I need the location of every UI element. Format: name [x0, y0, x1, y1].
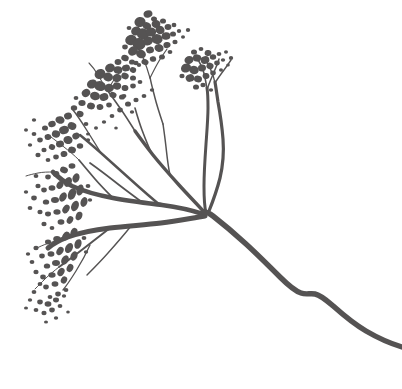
bud	[28, 206, 33, 210]
bud	[137, 63, 141, 67]
bud	[28, 143, 32, 147]
bud	[170, 31, 176, 36]
bud	[32, 132, 37, 136]
bud	[110, 114, 115, 118]
bud	[58, 219, 65, 225]
bud	[168, 50, 173, 54]
bud	[84, 122, 89, 126]
bud	[210, 71, 216, 76]
bud	[33, 246, 38, 250]
bud	[45, 240, 51, 245]
bud	[41, 188, 47, 193]
bud	[186, 28, 190, 32]
bud	[199, 47, 204, 51]
bud	[150, 88, 154, 92]
bud	[77, 143, 83, 149]
bud	[53, 236, 61, 242]
bud	[102, 120, 106, 124]
bud	[74, 96, 79, 100]
bud	[41, 311, 46, 315]
bud	[82, 236, 87, 240]
bud	[179, 74, 184, 78]
bud	[94, 126, 98, 130]
bud	[160, 18, 166, 23]
bud	[71, 105, 77, 111]
bud	[210, 54, 216, 60]
bud	[133, 98, 138, 102]
bud	[165, 24, 172, 30]
bud	[48, 295, 53, 299]
bud	[177, 29, 181, 33]
bud	[130, 75, 136, 80]
bud	[127, 26, 132, 30]
bud	[52, 281, 59, 287]
bud	[130, 110, 134, 114]
bud	[64, 288, 69, 292]
bud	[115, 59, 122, 65]
bud	[32, 290, 37, 294]
bud	[37, 300, 43, 305]
bud	[35, 184, 40, 188]
bud	[54, 316, 58, 320]
bud	[50, 226, 55, 230]
bud	[31, 196, 37, 201]
bud	[49, 308, 55, 313]
bud	[24, 128, 28, 132]
bud	[48, 251, 55, 257]
bud	[229, 56, 233, 60]
bud	[219, 68, 223, 72]
bud	[24, 190, 28, 194]
bud	[86, 138, 90, 142]
bud	[37, 210, 42, 214]
bud	[106, 103, 112, 108]
bud	[53, 298, 59, 303]
bud	[226, 63, 230, 66]
bud	[24, 306, 28, 309]
bud	[37, 138, 43, 143]
bud	[49, 185, 56, 191]
bud	[172, 23, 177, 27]
bud	[48, 272, 55, 278]
bud	[142, 94, 147, 98]
bud	[86, 132, 90, 135]
botanical-sprig-drawing: Gypsophila sprig	[0, 0, 402, 389]
bud	[32, 118, 36, 122]
bud	[52, 260, 60, 266]
bud	[53, 209, 60, 215]
bud	[129, 59, 135, 64]
bud	[138, 80, 143, 84]
bud	[117, 108, 123, 113]
bud	[46, 158, 51, 162]
bud	[45, 301, 52, 307]
bud	[38, 282, 43, 286]
bud	[191, 49, 197, 54]
bud	[43, 285, 49, 290]
bud	[44, 263, 50, 268]
bud	[40, 275, 46, 280]
bud	[69, 163, 76, 169]
bud	[28, 298, 32, 302]
bud	[114, 126, 118, 129]
bud	[193, 84, 199, 89]
bud	[45, 175, 51, 180]
bud	[209, 88, 213, 92]
bud	[78, 100, 85, 106]
bud	[26, 252, 30, 256]
bud	[34, 308, 39, 312]
bud	[221, 58, 225, 62]
bud	[88, 198, 92, 202]
bud	[55, 292, 61, 297]
bud	[217, 52, 222, 56]
bud	[42, 125, 48, 130]
bud	[84, 250, 88, 254]
bud	[33, 270, 38, 274]
bud	[125, 101, 131, 106]
bud	[39, 254, 45, 259]
bud	[130, 84, 136, 89]
bud	[44, 320, 48, 323]
bud	[66, 310, 70, 313]
botanical-illustration-canvas: Gypsophila sprig	[0, 0, 402, 389]
bud	[35, 153, 40, 157]
bud	[122, 94, 127, 98]
bud	[45, 212, 51, 217]
